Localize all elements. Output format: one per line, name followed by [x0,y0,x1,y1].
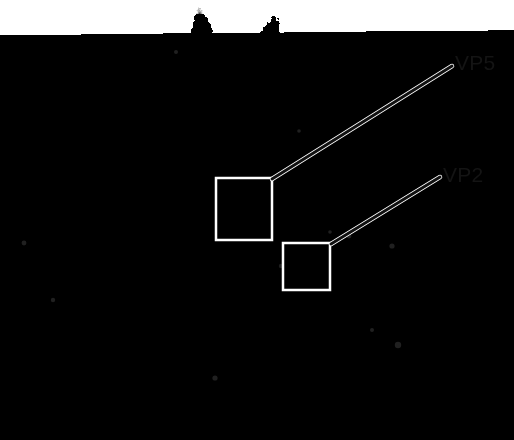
virus-capsid-density-map [0,0,514,440]
label-vp2: VP2 [443,164,483,185]
label-vp5: VP5 [455,52,495,73]
figure-panel: VP5 VP2 [0,0,514,440]
